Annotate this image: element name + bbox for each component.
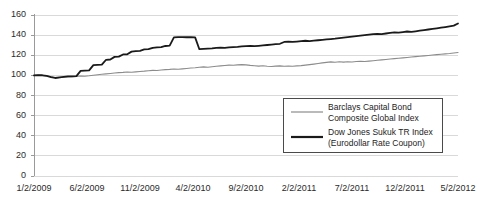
x-tick-label: 4/2/2010 xyxy=(163,184,223,193)
series-line-1 xyxy=(34,24,458,78)
legend-label-sukuk-line1: Dow Jones Sukuk TR Index xyxy=(328,127,433,138)
y-tick-label: 40 xyxy=(0,131,26,140)
x-tick-label: 12/2/2011 xyxy=(375,184,435,193)
legend-swatch-line-icon xyxy=(291,131,323,143)
x-tick-label: 2/2/2011 xyxy=(269,184,329,193)
legend-label-sukuk-line2: (Eurodollar Rate Coupon) xyxy=(328,138,433,149)
legend-label-barclays-line2: Composite Global Index xyxy=(328,113,419,124)
x-tick-label: 9/2/2010 xyxy=(216,184,276,193)
y-tick-label: 140 xyxy=(0,30,26,39)
legend-item-sukuk: Dow Jones Sukuk TR Index (Eurodollar Rat… xyxy=(284,127,442,151)
x-tick-label: 6/2/2009 xyxy=(57,184,117,193)
x-tick-label: 1/2/2009 xyxy=(4,184,64,193)
legend-item-barclays: Barclays Capital Bond Composite Global I… xyxy=(284,102,442,126)
legend-label-barclays-line1: Barclays Capital Bond xyxy=(328,102,419,113)
y-tick-label: 80 xyxy=(0,91,26,100)
x-tick-label: 7/2/2011 xyxy=(322,184,382,193)
y-tick-label: 0 xyxy=(0,171,26,180)
x-tick-label: 11/2/2009 xyxy=(110,184,170,193)
y-tick-label: 160 xyxy=(0,10,26,19)
chart-legend: Barclays Capital Bond Composite Global I… xyxy=(283,98,443,153)
x-tick-label: 5/2/2012 xyxy=(428,184,480,193)
y-tick-label: 60 xyxy=(0,111,26,120)
legend-swatch-line-icon xyxy=(291,106,323,118)
y-tick-label: 20 xyxy=(0,151,26,160)
y-tick-label: 120 xyxy=(0,50,26,59)
y-tick-label: 100 xyxy=(0,70,26,79)
